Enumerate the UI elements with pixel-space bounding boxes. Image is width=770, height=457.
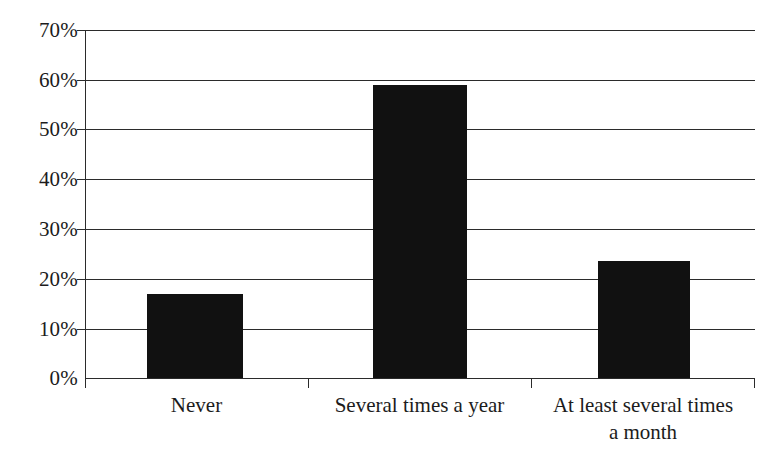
y-axis-tick-10: [77, 329, 86, 330]
x-category-label-never: Never: [85, 392, 308, 419]
x-category-label-at-least-several-times-a-month-line2: a month: [531, 419, 755, 446]
y-axis-tick-60: [77, 80, 86, 81]
x-axis-tick-2: [531, 379, 532, 388]
y-axis-tick-70: [77, 30, 86, 31]
gridline-60: [85, 80, 755, 81]
bar-never: [147, 294, 243, 379]
x-axis-tick-left: [85, 378, 86, 388]
y-tick-label-30: 30%: [6, 219, 78, 240]
y-tick-label-40: 40%: [6, 169, 78, 190]
bar-at-least-several-times-a-month: [598, 261, 690, 378]
y-tick-label-0: 0%: [6, 368, 78, 389]
y-axis-tick-20: [77, 279, 86, 280]
y-axis-tick-30: [77, 229, 86, 230]
y-tick-label-70: 70%: [6, 20, 78, 41]
y-axis-tick-50: [77, 129, 86, 130]
x-axis-line: [85, 378, 755, 379]
y-tick-label-20: 20%: [6, 269, 78, 290]
x-category-label-at-least-several-times-a-month: At least several times a month: [531, 392, 755, 446]
y-axis-tick-labels: 70% 60% 50% 40% 30% 20% 10% 0%: [0, 0, 78, 457]
y-axis-tick-40: [77, 179, 86, 180]
x-category-label-never-line1: Never: [85, 392, 308, 419]
bar-several-times-a-year: [373, 85, 467, 378]
y-tick-label-50: 50%: [6, 119, 78, 140]
x-axis-tick-right: [754, 378, 755, 388]
x-category-label-several-times-a-year: Several times a year: [308, 392, 531, 419]
x-axis-category-labels: Never Several times a year At least seve…: [85, 392, 755, 454]
bar-chart: 70% 60% 50% 40% 30% 20% 10% 0% Never Sev…: [0, 0, 770, 457]
gridline-70: [85, 30, 755, 31]
x-axis-tick-1: [308, 379, 309, 388]
x-category-label-at-least-several-times-a-month-line1: At least several times: [531, 392, 755, 419]
y-tick-label-10: 10%: [6, 319, 78, 340]
plot-area: [85, 30, 755, 378]
x-category-label-several-times-a-year-line1: Several times a year: [308, 392, 531, 419]
y-tick-label-60: 60%: [6, 70, 78, 91]
